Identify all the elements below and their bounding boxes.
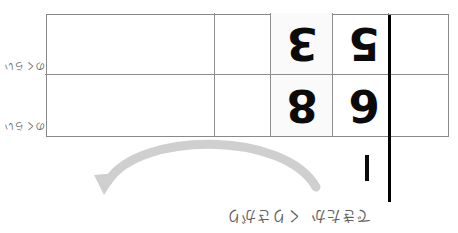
borrow-arrow-icon (94, 137, 330, 197)
handwritten-note: できたかくりさがり (183, 207, 413, 228)
minus-operator-sign (366, 155, 370, 181)
worksheet-canvas: じゅう十のくらい いち一のくらい 6 8 5 3 できたかくりさがり (0, 0, 458, 233)
digit-subtrahend-ones: 8 (271, 75, 333, 136)
digit-minuend-ones: 3 (271, 13, 333, 74)
grid-column-divider-4 (214, 13, 215, 136)
digit-minuend-tens: 5 (333, 13, 395, 74)
digit-subtrahend-tens: 6 (333, 75, 395, 136)
vertical-separator-rule (388, 15, 391, 202)
note-text-part-2: くりさがり (226, 208, 301, 224)
note-text-part-1: できたか (311, 208, 371, 224)
